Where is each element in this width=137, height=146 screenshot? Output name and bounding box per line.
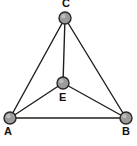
node-label-a: A (4, 126, 12, 137)
node-highlight-c (61, 14, 65, 18)
graph-edge-c-b (65, 18, 126, 118)
node-layer (4, 12, 132, 124)
node-label-b: B (122, 126, 130, 137)
edge-layer (10, 18, 126, 118)
graph-node-b (120, 112, 132, 124)
graph-node-a (4, 112, 16, 124)
graph-node-e (57, 77, 69, 89)
node-label-c: C (62, 0, 70, 9)
graph-node-c (59, 12, 71, 24)
node-highlight-b (122, 114, 126, 118)
graph-figure: CEAB (0, 0, 137, 146)
graph-edge-a-e (10, 83, 63, 118)
graph-canvas (0, 0, 137, 146)
node-highlight-e (59, 79, 63, 83)
figure-caption (0, 139, 137, 146)
graph-edge-e-b (63, 83, 126, 118)
node-highlight-a (6, 114, 10, 118)
node-label-e: E (59, 92, 66, 103)
graph-edge-c-a (10, 18, 65, 118)
graph-edge-c-e (63, 18, 65, 83)
